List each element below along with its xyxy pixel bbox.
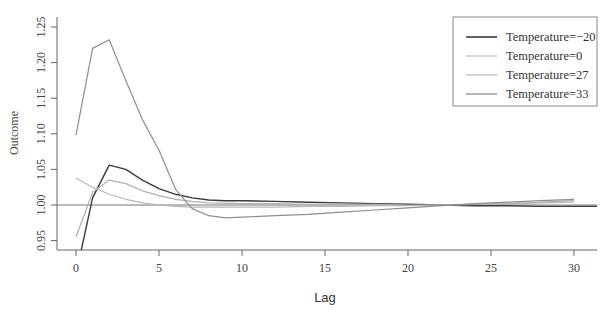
y-tick-label: 0.95 [34, 230, 48, 251]
y-tick-label: 1.15 [34, 88, 48, 109]
x-tick-label: 10 [236, 261, 248, 275]
line-chart: 0.951.001.051.101.151.201.25 05101520253… [0, 0, 605, 316]
legend-label: Temperature=−20 [506, 30, 596, 44]
x-tick-label: 15 [319, 261, 331, 275]
y-axis-title: Outcome [7, 111, 21, 155]
y-tick-label: 1.10 [34, 123, 48, 144]
x-tick-label: 20 [402, 261, 414, 275]
legend-label: Temperature=33 [506, 87, 589, 101]
series-line-temperature-20 [81, 165, 599, 251]
x-tick-label: 25 [485, 261, 497, 275]
x-tick-label: 0 [73, 261, 79, 275]
legend-label: Temperature=0 [506, 49, 582, 63]
legend: Temperature=−20Temperature=0Temperature=… [453, 17, 597, 106]
y-tick-label: 1.00 [34, 195, 48, 216]
x-axis-ticks: 051015202530 [73, 250, 580, 275]
x-tick-label: 5 [156, 261, 162, 275]
legend-label: Temperature=27 [506, 68, 589, 82]
series-line-temperature-27 [76, 180, 574, 237]
x-tick-label: 30 [568, 261, 580, 275]
y-tick-label: 1.25 [34, 17, 48, 38]
y-tick-label: 1.20 [34, 52, 48, 73]
y-tick-label: 1.05 [34, 159, 48, 180]
y-axis-ticks: 0.951.001.051.101.151.201.25 [34, 17, 57, 252]
x-axis-title: Lag [314, 290, 336, 305]
